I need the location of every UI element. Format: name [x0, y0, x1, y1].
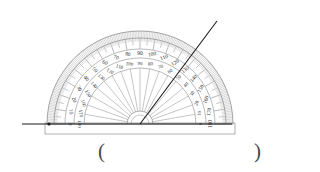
- degree-tick-minor: [63, 86, 66, 88]
- degree-tick-minor: [191, 56, 193, 59]
- degree-tick-minor: [65, 82, 68, 84]
- degree-tick-mid: [216, 102, 223, 104]
- degree-tick-minor: [214, 86, 217, 88]
- degree-tick-minor: [219, 99, 222, 100]
- degree-tick-minor: [221, 111, 224, 112]
- degree-tick-minor: [115, 42, 116, 45]
- zero-mark-dot: [47, 122, 50, 125]
- degree-tick-minor: [215, 79, 221, 82]
- degree-tick-minor: [156, 33, 157, 40]
- degree-tick-minor: [73, 59, 78, 64]
- degree-tick-minor: [98, 41, 101, 47]
- degree-tick-minor: [72, 61, 77, 66]
- degree-tick-minor: [164, 35, 166, 42]
- degree-tick-minor: [201, 66, 204, 68]
- degree-tick-minor: [162, 34, 164, 41]
- degree-tick-minor: [60, 93, 63, 94]
- degree-tick-minor: [130, 32, 131, 39]
- degree-tick-minor: [59, 96, 62, 97]
- degree-tick-minor: [207, 73, 210, 75]
- degree-tick-minor: [64, 84, 67, 86]
- degree-tick-minor: [108, 44, 109, 47]
- outer-scale-label: 80: [125, 50, 132, 57]
- degree-tick-minor: [221, 106, 224, 107]
- degree-tick-minor: [225, 113, 232, 114]
- degree-tick-minor: [184, 44, 188, 50]
- degree-tick-minor: [132, 31, 133, 38]
- degree-tick-minor: [217, 82, 223, 85]
- answer-close-paren: ): [254, 141, 261, 162]
- degree-tick-minor: [195, 60, 197, 63]
- degree-tick-minor: [212, 73, 218, 77]
- degree-tick-minor: [118, 34, 120, 41]
- degree-tick-minor: [198, 55, 203, 60]
- degree-tick-minor: [153, 32, 154, 39]
- outer-scale-label: 170: [205, 107, 212, 116]
- degree-tick-minor: [84, 50, 88, 56]
- degree-tick-mid: [118, 41, 120, 48]
- degree-tick-mid: [147, 38, 148, 45]
- degree-tick-minor: [58, 99, 61, 100]
- degree-tick-minor: [67, 78, 70, 80]
- degree-tick-minor: [216, 80, 222, 83]
- degree-tick-minor: [219, 86, 225, 89]
- degree-tick-minor: [203, 61, 208, 66]
- degree-tick-minor: [216, 92, 219, 93]
- degree-tick-minor: [59, 79, 65, 82]
- degree-tick-minor: [89, 46, 93, 52]
- degree-tick-minor: [176, 47, 178, 50]
- degree-tick-minor: [60, 76, 66, 80]
- degree-tick-minor: [187, 46, 191, 52]
- degree-tick-minor: [170, 44, 171, 47]
- degree-tick-mid: [57, 102, 64, 104]
- degree-tick-minor: [155, 32, 156, 39]
- degree-tick-minor: [119, 41, 120, 44]
- degree-tick-minor: [172, 45, 173, 48]
- degree-tick-minor: [156, 40, 157, 43]
- degree-tick-mid: [160, 41, 162, 48]
- degree-tick-minor: [177, 47, 179, 50]
- degree-tick-major: [74, 69, 82, 76]
- inner-scale-label: 60: [167, 68, 174, 75]
- answer-blank[interactable]: [110, 141, 252, 165]
- degree-tick-minor: [47, 116, 54, 117]
- degree-tick-minor: [174, 45, 175, 48]
- degree-tick-minor: [217, 83, 223, 86]
- degree-tick-minor: [106, 45, 107, 48]
- outer-scale-label: 160: [201, 95, 210, 105]
- degree-tick-minor: [220, 105, 223, 106]
- degree-tick-minor: [180, 42, 183, 48]
- degree-tick-minor: [226, 114, 233, 115]
- degree-tick-major: [97, 50, 103, 60]
- degree-tick-minor: [77, 65, 80, 67]
- outer-scale-label: 0: [67, 123, 73, 126]
- degree-tick-minor: [56, 83, 62, 86]
- degree-tick-minor: [188, 47, 192, 53]
- outer-scale-label: 90: [137, 50, 143, 56]
- degree-tick-major: [66, 81, 76, 87]
- degree-tick-minor: [213, 84, 216, 86]
- degree-tick-minor: [160, 41, 161, 44]
- degree-tick-minor: [171, 44, 172, 47]
- degree-tick-minor: [78, 55, 83, 60]
- degree-tick-minor: [208, 76, 211, 78]
- degree-tick-minor: [62, 73, 68, 77]
- degree-tick-minor: [202, 59, 207, 64]
- degree-tick-minor: [114, 35, 116, 42]
- degree-tick-minor: [225, 109, 232, 110]
- degree-tick-mid: [196, 63, 201, 68]
- degree-tick-minor: [121, 33, 122, 40]
- degree-tick-minor: [65, 69, 71, 73]
- degree-tick-minor: [205, 63, 210, 68]
- degree-tick-mid: [104, 46, 107, 52]
- radial-spoke: [85, 114, 127, 121]
- degree-tick-minor: [101, 40, 104, 46]
- degree-tick-minor: [224, 105, 231, 106]
- degree-tick-minor: [226, 116, 233, 117]
- degree-tick-minor: [58, 97, 61, 98]
- degree-tick-minor: [61, 75, 67, 79]
- degree-tick-minor: [153, 39, 154, 42]
- degree-tick-minor: [101, 47, 103, 50]
- degree-tick-minor: [223, 98, 230, 100]
- degree-tick-minor: [183, 43, 187, 49]
